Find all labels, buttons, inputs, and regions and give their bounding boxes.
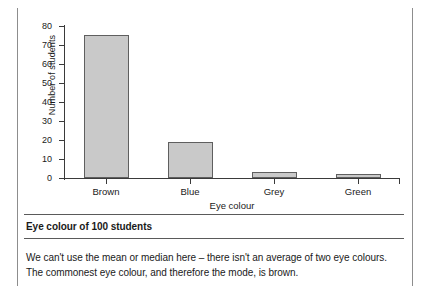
y-tick-label: 80	[42, 21, 52, 31]
y-tick-label: 70	[42, 40, 52, 50]
x-tick	[358, 179, 359, 184]
bar-green	[336, 174, 381, 178]
y-tick: 30	[59, 121, 64, 122]
y-tick-label: 60	[42, 59, 52, 69]
page-root: Number of students 0 10 20 30 40 50	[0, 0, 431, 292]
y-tick: 40	[59, 102, 64, 103]
bar-chart: Number of students 0 10 20 30 40 50	[24, 14, 404, 212]
y-tick-label: 10	[42, 154, 52, 164]
y-tick: 50	[59, 83, 64, 84]
x-tick-label: Blue	[180, 186, 199, 197]
bar-blue	[168, 142, 213, 178]
x-tick	[274, 179, 275, 184]
x-tick-label: Green	[345, 186, 371, 197]
y-tick-label: 20	[42, 135, 52, 145]
x-tick	[106, 179, 107, 184]
y-tick: 20	[59, 140, 64, 141]
x-tick	[399, 179, 400, 184]
y-tick: 10	[59, 159, 64, 160]
y-axis-title: Number of students	[47, 20, 57, 130]
x-axis-line	[64, 178, 400, 179]
y-tick: 80	[59, 26, 64, 27]
x-tick	[190, 179, 191, 184]
y-tick: 60	[59, 64, 64, 65]
x-tick-label: Brown	[93, 186, 120, 197]
y-tick-label: 40	[42, 97, 52, 107]
y-tick: 0	[59, 178, 64, 179]
y-axis-line	[64, 25, 65, 180]
y-tick-label: 50	[42, 78, 52, 88]
caption-title: Eye colour of 100 students	[24, 215, 404, 238]
bar-brown	[84, 35, 129, 179]
x-tick-label: Grey	[264, 186, 285, 197]
page-right-rule	[412, 8, 413, 286]
y-tick-label: 30	[42, 116, 52, 126]
y-tick: 70	[59, 45, 64, 46]
caption-block: Eye colour of 100 students We can't use …	[24, 214, 404, 280]
caption-body: We can't use the mean or median here – t…	[24, 239, 398, 280]
page-left-rule	[17, 8, 18, 286]
x-axis-title: Eye colour	[64, 200, 400, 211]
y-tick-label: 0	[47, 173, 52, 183]
bar-grey	[252, 172, 297, 178]
plot-area: 0 10 20 30 40 50 60 70 8	[64, 14, 400, 192]
